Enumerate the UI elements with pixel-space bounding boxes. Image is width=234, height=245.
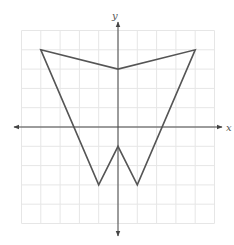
x-axis-label: x (226, 122, 232, 133)
coordinate-plane-figure: x y (0, 0, 234, 245)
coordinate-plane: x y (0, 0, 234, 245)
y-axis-label: y (111, 10, 118, 21)
